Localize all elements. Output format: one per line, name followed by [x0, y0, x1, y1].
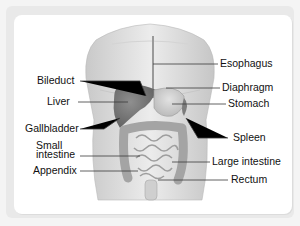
label-rectum: Rectum — [231, 174, 267, 185]
torso-illustration — [0, 0, 300, 226]
label-small-intestine: Small intestine — [36, 141, 75, 159]
label-bileduct: Bileduct — [37, 75, 74, 86]
label-liver: Liver — [47, 96, 70, 107]
label-small-intestine-line2: intestine — [36, 148, 75, 160]
label-large-intestine: Large intestine — [212, 156, 281, 167]
label-spleen: Spleen — [233, 132, 266, 143]
label-esophagus: Esophagus — [220, 58, 273, 69]
label-diaphragm: Diaphragm — [222, 82, 273, 93]
torso-silhouette — [86, 24, 215, 200]
label-gallbladder: Gallbladder — [25, 123, 79, 134]
rectum-organ — [145, 180, 157, 200]
label-appendix: Appendix — [33, 165, 77, 176]
label-stomach: Stomach — [228, 98, 269, 109]
